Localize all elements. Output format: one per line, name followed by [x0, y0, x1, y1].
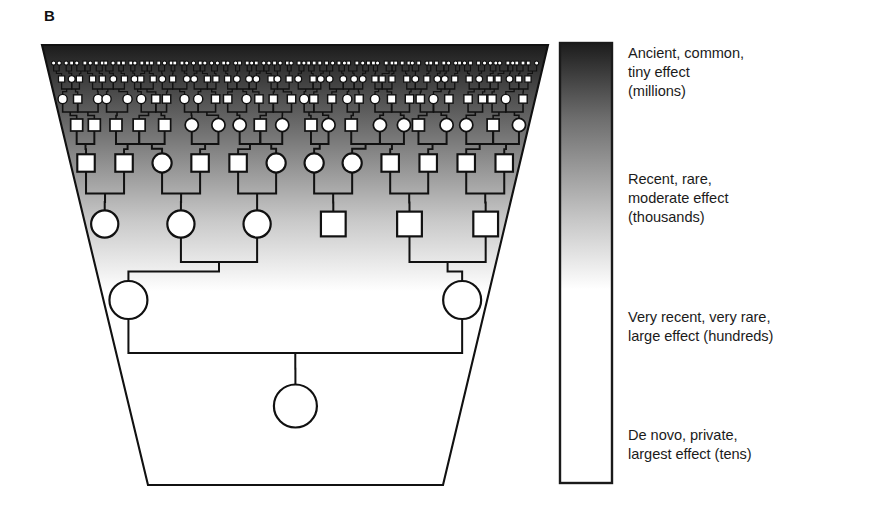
pedigree-symbol-female [441, 76, 448, 83]
pedigree-symbol-male [268, 76, 274, 82]
pedigree-symbol-male [487, 76, 493, 82]
pedigree-symbol-female [460, 118, 473, 131]
pedigree-symbol-male [387, 95, 395, 103]
pedigree-symbol-female [215, 61, 219, 65]
pedigree-symbol-female [131, 76, 138, 83]
pedigree-symbol-female [267, 153, 286, 172]
pedigree-symbol-male [487, 119, 499, 131]
legend-label-very-recent-very-rare-large-effect: Very recent, very rare, large effect (hu… [628, 308, 773, 346]
pedigree-symbol-male [211, 95, 219, 103]
pedigree-symbol-male [445, 95, 453, 103]
pedigree-symbol-male [321, 212, 346, 237]
pedigree-symbol-female [185, 118, 198, 131]
pedigree-symbol-female [57, 61, 61, 65]
pedigree-symbol-female [300, 94, 309, 103]
pedigree-symbol-male [170, 76, 176, 82]
pedigree-symbol-female [359, 76, 366, 83]
pedigree-symbol-female [267, 61, 271, 65]
pedigree-symbol-male [99, 76, 105, 82]
pedigree-symbol-female [191, 76, 198, 83]
pedigree-symbol-male [77, 154, 94, 171]
pedigree-symbol-male [204, 76, 210, 82]
pedigree-symbol-male [419, 154, 436, 171]
pedigree-symbol-female [253, 76, 260, 83]
legend-label-de-novo-private-largest-effect: De novo, private, largest effect (tens) [628, 426, 752, 464]
pedigree-symbol-female [375, 61, 379, 65]
pedigree-symbol-male [405, 95, 413, 103]
pedigree-symbol-male [305, 119, 317, 131]
pedigree-symbol-male [452, 76, 458, 82]
pedigree-symbol-female [429, 94, 438, 103]
pedigree-symbol-female [370, 94, 379, 103]
pedigree-symbol-male [469, 61, 473, 65]
pedigree-symbol-female [274, 76, 281, 83]
pedigree-symbol-female [488, 61, 492, 65]
pedigree-symbol-female [506, 76, 513, 83]
pedigree-symbol-female [278, 61, 282, 65]
pedigree-symbol-male [404, 76, 410, 82]
pedigree-symbol-female [233, 118, 246, 131]
pedigree-symbol-female [233, 76, 240, 83]
pedigree-descent-line [358, 89, 359, 95]
pedigree-symbol-female [342, 61, 346, 65]
pedigree-symbol-male [347, 61, 351, 65]
pedigree-symbol-male [145, 61, 149, 65]
pedigree-symbol-male [297, 61, 301, 65]
pedigree-symbol-male [273, 61, 277, 65]
pedigree-symbol-female [295, 76, 302, 83]
pedigree-symbol-male [516, 76, 522, 82]
pedigree-symbol-male [286, 76, 292, 82]
pedigree-symbol-female [440, 118, 453, 131]
pedigree-symbol-male [89, 76, 95, 82]
pedigree-symbol-male [150, 61, 154, 65]
pedigree-symbol-male [345, 119, 357, 131]
pedigree-symbol-female [343, 94, 352, 103]
pedigree-symbol-male [104, 61, 108, 65]
pedigree-symbol-male [83, 61, 87, 65]
pedigree-symbol-female [373, 118, 386, 131]
pedigree-symbol-female [289, 61, 293, 65]
pedigree-symbol-female [52, 61, 56, 65]
pedigree-symbol-male [429, 61, 433, 65]
pedigree-symbol-female [167, 210, 194, 237]
pedigree-symbol-male [367, 61, 371, 65]
pedigree-symbol-female [75, 61, 79, 65]
pedigree-symbol-female [276, 118, 289, 131]
pedigree-symbol-female [512, 118, 525, 131]
pedigree-symbol-male [71, 119, 83, 131]
pedigree-symbol-female [535, 61, 539, 65]
pedigree-symbol-male [157, 61, 161, 65]
pedigree-symbol-female [412, 76, 419, 83]
pedigree-symbol-female [322, 118, 335, 131]
pedigree-symbol-female [109, 281, 147, 319]
pedigree-symbol-male [478, 95, 486, 103]
pedigree-symbol-male [379, 76, 385, 82]
pedigree-symbol-female [511, 61, 515, 65]
variant-age-effect-gradient-colorbar [560, 43, 612, 483]
pedigree-symbol-female [244, 210, 271, 237]
pedigree-symbol-male [372, 76, 378, 82]
pedigree-symbol-male [117, 61, 121, 65]
pedigree-symbol-female [159, 76, 166, 83]
pedigree-symbol-male [337, 61, 341, 65]
pedigree-symbol-female [210, 61, 214, 65]
pedigree-symbol-male [525, 76, 531, 82]
panel-label: B [44, 8, 55, 23]
pedigree-symbol-male [150, 76, 156, 82]
pedigree-descent-line [97, 89, 98, 94]
legend-label-recent-rare-moderate-effect: Recent, rare, moderate effect (thousands… [628, 170, 728, 228]
pedigree-symbol-female [331, 61, 335, 65]
pedigree-descent-line [86, 144, 87, 154]
pedigree-symbol-female [137, 94, 146, 103]
pedigree-symbol-male [310, 95, 318, 103]
pedigree-symbol-male [372, 61, 376, 65]
pedigree-symbol-female [447, 61, 451, 65]
pedigree-symbol-male [506, 61, 510, 65]
pedigree-symbol-male [180, 61, 184, 65]
pedigree-symbol-female [185, 61, 189, 65]
pedigree-descent-line [162, 71, 163, 76]
pedigree-symbol-female [91, 210, 118, 237]
pedigree-symbol-female [302, 61, 306, 65]
pedigree-symbol-male [495, 76, 501, 82]
pedigree-symbol-male [519, 95, 527, 103]
